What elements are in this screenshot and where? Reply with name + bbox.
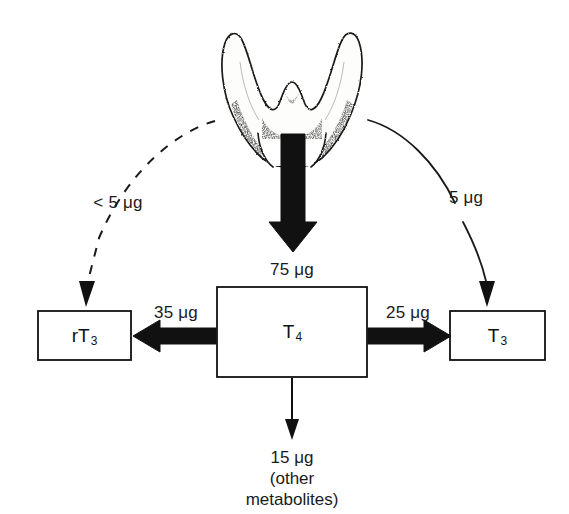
node-label-T3-text: T	[488, 325, 500, 346]
arrow-T4-to-metabolites	[285, 378, 299, 440]
arrow-thyroid-to-rT3	[79, 121, 215, 307]
node-label-T4-text: T	[283, 321, 295, 342]
node-label-T4-sub: 4	[295, 330, 302, 344]
arrowhead-metabolites	[285, 419, 299, 440]
flow-label-thyroid-to-rT3: < 5 μg	[93, 193, 142, 213]
metabolites-amount: 15 μg	[246, 447, 339, 468]
node-label-T3: T3	[488, 325, 506, 347]
node-label-T4: T4	[283, 321, 301, 343]
node-label-T3-sub: 3	[500, 334, 507, 348]
arrow-T4-to-T3	[368, 320, 451, 352]
metabolites-caption: 15 μg (other metabolites)	[246, 447, 339, 510]
flow-label-T4-to-T3: 25 μg	[386, 303, 430, 323]
flow-label-T4-to-rT3: 35 μg	[154, 303, 198, 323]
arrow-thyroid-to-T3	[368, 120, 495, 307]
arrow-T4-to-rT3	[133, 320, 216, 352]
arrowhead-rT3	[79, 281, 95, 307]
metabolites-line-2: (other	[246, 468, 339, 489]
node-label-rT3-sub: 3	[91, 334, 98, 348]
flow-label-thyroid-to-T4: 75 μg	[270, 260, 314, 280]
flow-label-thyroid-to-T3: 5 μg	[449, 188, 483, 208]
arrowhead-T3	[479, 281, 495, 307]
node-label-rT3: rT3	[72, 325, 97, 347]
thyroid-hormone-flow-diagram	[0, 0, 569, 514]
node-label-rT3-text: rT	[72, 325, 90, 346]
metabolites-line-3: metabolites)	[246, 489, 339, 510]
